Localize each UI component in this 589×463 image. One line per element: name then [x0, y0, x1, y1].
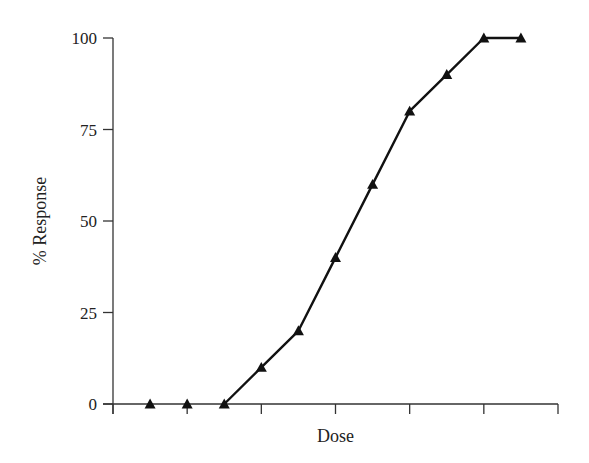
axes: 0255075100	[72, 29, 559, 414]
data-point-marker	[330, 252, 341, 262]
y-ticks: 0255075100	[72, 29, 114, 414]
series-group	[145, 33, 527, 409]
x-axis-label: Dose	[317, 426, 354, 446]
data-point-marker	[293, 325, 304, 335]
y-axis-label: % Response	[30, 177, 50, 266]
dose-response-chart: 0255075100 Dose % Response	[0, 0, 589, 463]
series-line	[224, 38, 521, 404]
data-point-marker	[367, 179, 378, 189]
y-tick-label: 0	[89, 395, 98, 414]
y-tick-label: 25	[80, 304, 97, 323]
y-tick-label: 100	[72, 29, 98, 48]
y-tick-label: 75	[80, 121, 97, 140]
x-ticks	[113, 404, 558, 414]
y-tick-label: 50	[80, 212, 97, 231]
